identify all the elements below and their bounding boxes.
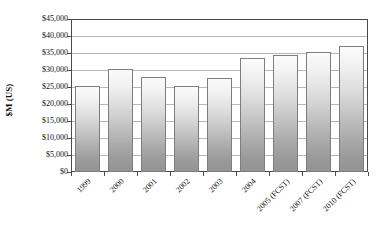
bar xyxy=(273,55,297,172)
bar xyxy=(75,86,99,172)
bar xyxy=(240,58,264,172)
y-axis-tick-mark xyxy=(67,138,71,139)
y-axis-tick-mark xyxy=(67,155,71,156)
y-axis-tick-mark xyxy=(67,87,71,88)
x-axis-tick-mark xyxy=(335,172,336,176)
y-axis-tick-mark xyxy=(67,53,71,54)
x-axis-tick-mark xyxy=(368,172,369,176)
x-axis-tick-label: 2004 xyxy=(240,177,258,195)
y-axis-tick-label: $15,000 xyxy=(16,117,68,125)
y-axis-tick-mark xyxy=(67,104,71,105)
bars-layer xyxy=(71,19,368,172)
bar-chart: $M (US) $45,000$40,000$35,000$30,000$25,… xyxy=(0,0,383,241)
y-axis-tick-labels: $45,000$40,000$35,000$30,000$25,000$20,0… xyxy=(16,19,68,172)
y-axis-tick-label: $35,000 xyxy=(16,49,68,57)
x-axis-tick-mark xyxy=(71,172,72,176)
x-axis-tick-mark xyxy=(236,172,237,176)
x-axis-tick-mark xyxy=(104,172,105,176)
x-axis-tick-label: 1999 xyxy=(75,177,93,195)
y-axis-tick-label: $0 xyxy=(16,168,68,176)
bar xyxy=(141,77,165,172)
x-axis-tick-label: 2000 xyxy=(108,177,126,195)
y-axis-tick-mark xyxy=(67,36,71,37)
x-axis-tick-mark xyxy=(269,172,270,176)
x-axis-tick-label: 2005 (FCST) xyxy=(255,177,291,213)
y-axis-tick-label: $20,000 xyxy=(16,100,68,108)
x-axis-tick-mark xyxy=(203,172,204,176)
x-axis-tick-mark xyxy=(170,172,171,176)
y-axis-tick-label: $25,000 xyxy=(16,83,68,91)
bar xyxy=(174,86,198,172)
y-axis-tick-mark xyxy=(67,19,71,20)
y-axis-tick-label: $10,000 xyxy=(16,134,68,142)
bar xyxy=(339,46,363,172)
x-axis-tick-mark xyxy=(302,172,303,176)
y-axis-tick-mark xyxy=(67,121,71,122)
x-axis-tick-label: 2002 xyxy=(174,177,192,195)
x-axis-tick-label: 2003 xyxy=(207,177,225,195)
y-axis-tick-label: $30,000 xyxy=(16,66,68,74)
y-axis-tick-label: $5,000 xyxy=(16,151,68,159)
y-axis-tick-mark xyxy=(67,70,71,71)
x-axis-tick-label: 2010 (FCST) xyxy=(321,177,357,213)
x-axis-tick-label: 2007 (FCST) xyxy=(288,177,324,213)
bar xyxy=(207,78,231,172)
y-axis-title-text: $M (US) xyxy=(4,84,14,117)
x-axis-tick-label: 2001 xyxy=(141,177,159,195)
bar xyxy=(108,69,132,172)
x-axis-tick-mark xyxy=(137,172,138,176)
y-axis-tick-label: $45,000 xyxy=(16,15,68,23)
bar xyxy=(306,52,330,172)
y-axis-tick-label: $40,000 xyxy=(16,32,68,40)
x-axis-tick-labels: 1999200020012002200320042005 (FCST)2007 … xyxy=(0,176,383,238)
